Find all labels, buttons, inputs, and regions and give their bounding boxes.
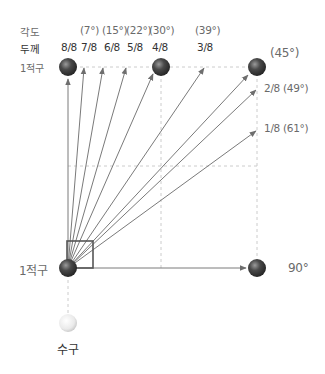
cue-ball-label: 수구 (57, 340, 78, 357)
arrow-45deg (68, 75, 248, 268)
angle-label-3-8: (39°) (195, 24, 220, 36)
arrow-2-8 (68, 90, 256, 268)
angle-label-5-8: (22°) (126, 24, 151, 36)
angle-label-6-8: (15°) (102, 24, 127, 36)
arrow-6-8 (68, 68, 103, 268)
angle-label-7-8: (7°) (80, 24, 99, 36)
label-90deg: 90° (288, 261, 308, 275)
object-ball-90deg (248, 259, 266, 277)
thickness-6-8: 6/8 (104, 41, 120, 53)
thickness-5-8: 5/8 (127, 41, 143, 53)
thickness-3-8: 3/8 (197, 41, 213, 53)
object-ball-45deg (248, 58, 266, 76)
shot-arrows (68, 68, 256, 268)
object-ball-4-8 (152, 58, 170, 76)
label-2-8-49deg: 2/8 (49°) (264, 82, 308, 94)
object-ball-origin (59, 259, 77, 277)
thickness-8-8: 8/8 (61, 41, 77, 53)
label-45deg: (45°) (270, 46, 299, 60)
angle-row-label: 각도 (20, 24, 39, 39)
object-ball-bottom-label: 1적구 (19, 261, 48, 278)
arrow-3-8 (68, 68, 204, 268)
arrow-1-8 (68, 131, 256, 268)
label-1-8-61deg: 1/8 (61°) (264, 122, 308, 134)
angle-label-4-8: (30°) (149, 24, 174, 36)
thickness-row-label: 두께 (20, 41, 39, 56)
arrow-5-8 (68, 68, 126, 268)
thickness-4-8: 4/8 (152, 41, 168, 53)
object-ball-8-8 (59, 58, 77, 76)
cue-ball (59, 314, 77, 332)
thickness-7-8: 7/8 (81, 41, 97, 53)
object-ball-top-label: 1적구 (20, 60, 43, 75)
